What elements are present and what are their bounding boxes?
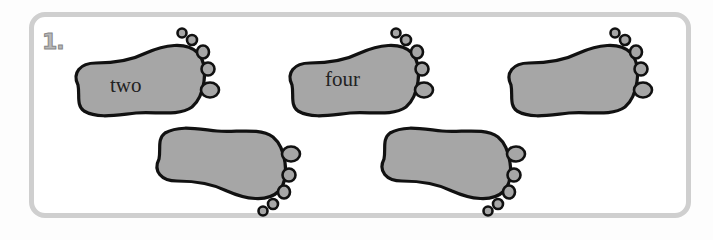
exercise-number: 1.: [42, 29, 64, 54]
footprint-5: [372, 127, 527, 207]
footprint-icon: [66, 45, 221, 125]
footprint-2: four: [280, 45, 435, 125]
footprint-4: [147, 127, 302, 207]
footprint-icon: [372, 127, 527, 207]
footprint-icon: [499, 45, 654, 125]
footprint-icon: [147, 127, 302, 207]
footprint-word: two: [110, 73, 142, 98]
footprint-word: four: [325, 67, 360, 92]
footprint-1: two: [66, 45, 221, 125]
footprint-3: [499, 45, 654, 125]
